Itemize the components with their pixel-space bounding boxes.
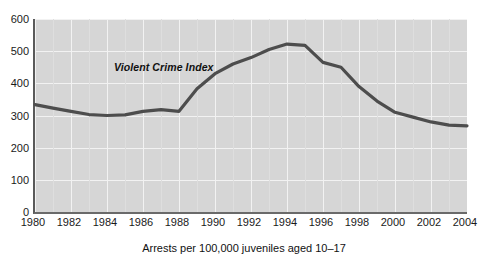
x-tick-label: 1992 xyxy=(229,216,269,229)
y-tick-label: 500 xyxy=(1,46,29,57)
plot-area xyxy=(33,19,467,214)
x-tick-label: 1990 xyxy=(193,216,233,229)
y-tick-label: 400 xyxy=(1,78,29,89)
x-axis-labels: 1980198219841986198819901992199419961998… xyxy=(0,216,488,232)
x-tick-label: 1996 xyxy=(301,216,341,229)
x-tick-label: 1986 xyxy=(121,216,161,229)
x-axis-title: Arrests per 100,000 juveniles aged 10–17 xyxy=(0,242,488,254)
x-tick-label: 1988 xyxy=(157,216,197,229)
y-tick-label: 200 xyxy=(1,143,29,154)
y-tick-label: 100 xyxy=(1,175,29,186)
chart-figure: 0100200300400500600 Violent Crime Index … xyxy=(0,0,488,266)
x-tick-label: 2004 xyxy=(445,216,485,229)
y-tick-label: 600 xyxy=(1,14,29,25)
x-tick-label: 1982 xyxy=(49,216,89,229)
x-tick-label: 1994 xyxy=(265,216,305,229)
series-annotation-label: Violent Crime Index xyxy=(114,61,214,73)
x-tick-label: 2002 xyxy=(409,216,449,229)
series-line xyxy=(35,44,467,126)
x-tick-label: 1998 xyxy=(337,216,377,229)
y-tick-label: 300 xyxy=(1,111,29,122)
x-tick-label: 2000 xyxy=(373,216,413,229)
x-tick-label: 1984 xyxy=(85,216,125,229)
series-violent-crime-index xyxy=(35,19,467,212)
x-tick-label: 1980 xyxy=(13,216,53,229)
